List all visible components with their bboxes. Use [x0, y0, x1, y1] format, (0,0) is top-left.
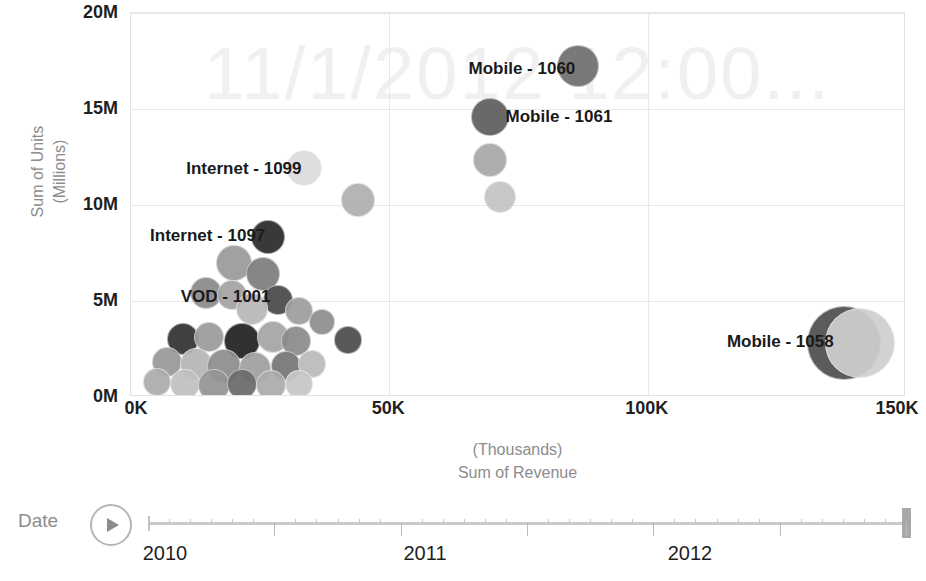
timeline-tick [338, 519, 339, 523]
timeline-tick [822, 519, 823, 523]
y-axis-tick-label: 5M [93, 290, 124, 311]
bubble-data-label: Mobile - 1060 [469, 59, 576, 79]
timeline-tick [211, 519, 212, 523]
timeline-tick [485, 519, 486, 523]
gridline-vertical [648, 13, 649, 395]
timeline-tick [801, 519, 802, 523]
timeline-tick [148, 519, 149, 523]
timeline-tick [401, 522, 402, 536]
play-button[interactable] [90, 504, 132, 546]
timeline-tick [632, 519, 633, 523]
timeline-tick [274, 522, 275, 536]
bubble-data-point[interactable] [341, 183, 375, 217]
timeline-tick [843, 519, 844, 523]
bubble-data-point[interactable] [334, 326, 362, 354]
plot-area[interactable]: 11/1/2012 12:00... Mobile - 1060Mobile -… [130, 12, 905, 396]
x-axis-tick-label: 0K [124, 398, 147, 419]
bubble-data-label: Mobile - 1058 [727, 332, 834, 352]
timeline-tick [569, 519, 570, 523]
timeline-tick [253, 519, 254, 523]
timeline-tick [674, 519, 675, 523]
timeline-tick [464, 519, 465, 523]
y-axis-tick-label: 20M [83, 2, 124, 23]
bubble-data-point[interactable] [285, 370, 313, 396]
bubble-data-point[interactable] [484, 181, 516, 213]
y-axis-tick-label: 0M [93, 386, 124, 407]
bubble-data-point[interactable] [170, 369, 200, 396]
x-axis-tick-label: 50K [372, 398, 405, 419]
timeline-tick [611, 519, 612, 523]
timeline-tick [653, 522, 654, 536]
timeline-tick [548, 519, 549, 523]
x-axis-tick-label: 150K [875, 398, 918, 419]
date-timeline[interactable]: Date 201020112012 [0, 498, 926, 581]
timeline-tick [864, 519, 865, 523]
timeline-tick [738, 519, 739, 523]
x-axis-tick-label: 100K [625, 398, 668, 419]
timeline-tick [232, 519, 233, 523]
bubble-chart-visual: Sum of Units (Millions) 20M15M10M5M0M 11… [0, 0, 926, 581]
bubble-data-point[interactable] [825, 308, 895, 378]
y-axis-ticks: 20M15M10M5M0M [0, 0, 124, 400]
timeline-track[interactable] [148, 522, 906, 525]
bubble-data-point[interactable] [198, 369, 230, 396]
bubble-data-label: Internet - 1097 [150, 226, 265, 246]
timeline-tick [695, 519, 696, 523]
timeline-tick [717, 519, 718, 523]
timeline-tick [380, 519, 381, 523]
timeline-tick [590, 519, 591, 523]
bubble-data-label: VOD - 1001 [181, 287, 271, 307]
timeline-year-label: 2011 [403, 542, 446, 565]
timeline-tick [527, 522, 528, 536]
bubble-data-point[interactable] [471, 98, 509, 136]
timeline-year-label: 2010 [143, 542, 188, 565]
timeline-tick [295, 519, 296, 523]
timeline-tick [780, 522, 781, 536]
bubble-data-point[interactable] [143, 368, 171, 396]
gridline-vertical [389, 13, 390, 395]
play-icon [107, 518, 119, 532]
y-axis-tick-label: 10M [83, 194, 124, 215]
bubble-data-point[interactable] [309, 309, 335, 335]
gridline-horizontal [131, 205, 904, 206]
timeline-tick [316, 519, 317, 523]
y-axis-tick-label: 15M [83, 98, 124, 119]
bubble-data-label: Mobile - 1061 [506, 107, 613, 127]
timeline-tick [759, 519, 760, 523]
bubble-data-label: Internet - 1099 [186, 159, 301, 179]
bubble-data-point[interactable] [473, 143, 507, 177]
bubble-data-point[interactable] [227, 369, 257, 396]
timeline-tick [190, 519, 191, 523]
x-axis-title-line2: Sum of Revenue [130, 461, 905, 484]
gridline-horizontal [131, 13, 904, 14]
timeline-tick [422, 519, 423, 523]
timeline-tick [443, 519, 444, 523]
timeline-tick [906, 522, 907, 536]
timeline-tick [506, 519, 507, 523]
x-axis-title: (Thousands) Sum of Revenue [130, 438, 905, 484]
timeline-label: Date [18, 510, 58, 532]
timeline-tick [359, 519, 360, 523]
timeline-tick [169, 519, 170, 523]
timeline-year-label: 2012 [668, 542, 713, 565]
bubble-data-point[interactable] [256, 370, 286, 396]
x-axis-title-line1: (Thousands) [130, 438, 905, 461]
timeline-tick [885, 519, 886, 523]
